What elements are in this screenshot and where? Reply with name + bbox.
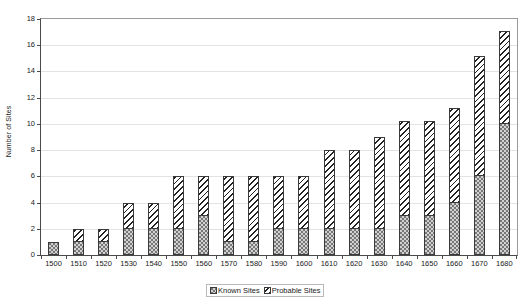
bar-stack[interactable] — [248, 176, 259, 255]
bar-slot[interactable] — [191, 19, 216, 255]
bar-stack[interactable] — [173, 176, 184, 255]
bar-segment-probable-sites[interactable] — [449, 108, 460, 202]
bar-segment-known-sites[interactable] — [123, 229, 134, 255]
bar-segment-known-sites[interactable] — [324, 229, 335, 255]
bar-stack[interactable] — [449, 108, 460, 255]
bar-segment-probable-sites[interactable] — [248, 176, 259, 242]
bar-segment-probable-sites[interactable] — [223, 176, 234, 242]
bar-segment-known-sites[interactable] — [399, 216, 410, 255]
legend-label: Probable Sites — [272, 286, 321, 295]
bar-slot[interactable] — [266, 19, 291, 255]
bar-slot[interactable] — [367, 19, 392, 255]
bar-segment-known-sites[interactable] — [374, 229, 385, 255]
x-axis-tick-label: 1630 — [367, 258, 392, 272]
bar-segment-probable-sites[interactable] — [123, 203, 134, 229]
bar-segment-probable-sites[interactable] — [173, 176, 184, 228]
bar-slot[interactable] — [91, 19, 116, 255]
bar-segment-probable-sites[interactable] — [298, 176, 309, 228]
bar-stack[interactable] — [474, 56, 485, 255]
chart-figure: Number of Sites 024681012141618 15001510… — [0, 0, 531, 302]
bar-segment-known-sites[interactable] — [223, 242, 234, 255]
x-axis-tick-label: 1650 — [417, 258, 442, 272]
bar-segment-known-sites[interactable] — [48, 242, 59, 255]
bar-stack[interactable] — [98, 229, 109, 255]
bar-slot[interactable] — [241, 19, 266, 255]
bar-slot[interactable] — [166, 19, 191, 255]
bar-segment-known-sites[interactable] — [273, 229, 284, 255]
x-axis-tick-label: 1590 — [266, 258, 291, 272]
bar-segment-known-sites[interactable] — [148, 229, 159, 255]
bar-segment-probable-sites[interactable] — [148, 203, 159, 229]
bar-segment-probable-sites[interactable] — [324, 150, 335, 229]
bar-stack[interactable] — [324, 150, 335, 255]
bar-slot[interactable] — [442, 19, 467, 255]
bar-segment-known-sites[interactable] — [499, 124, 510, 255]
x-axis-tick-label: 1510 — [66, 258, 91, 272]
y-axis-tick-label: 12 — [27, 94, 35, 102]
bar-segment-known-sites[interactable] — [298, 229, 309, 255]
bar-stack[interactable] — [374, 137, 385, 255]
x-axis-tick-label: 1540 — [141, 258, 166, 272]
x-axis-tick-label: 1580 — [241, 258, 266, 272]
bar-segment-known-sites[interactable] — [424, 216, 435, 255]
bar-segment-probable-sites[interactable] — [474, 56, 485, 177]
bar-slot[interactable] — [467, 19, 492, 255]
bar-segment-known-sites[interactable] — [198, 216, 209, 255]
bar-slot[interactable] — [116, 19, 141, 255]
legend-swatch-probable-icon — [264, 287, 271, 294]
bar-slot[interactable] — [291, 19, 316, 255]
bar-slot[interactable] — [417, 19, 442, 255]
bar-segment-probable-sites[interactable] — [424, 121, 435, 215]
x-axis-tick-label: 1640 — [392, 258, 417, 272]
bar-slot[interactable] — [141, 19, 166, 255]
bar-slot[interactable] — [317, 19, 342, 255]
chart-legend: Known SitesProbable Sites — [206, 284, 324, 297]
bar-stack[interactable] — [273, 176, 284, 255]
bar-segment-probable-sites[interactable] — [198, 176, 209, 215]
bar-stack[interactable] — [223, 176, 234, 255]
bar-segment-known-sites[interactable] — [98, 242, 109, 255]
x-axis-tick-label: 1680 — [492, 258, 517, 272]
bar-stack[interactable] — [298, 176, 309, 255]
bar-stack[interactable] — [424, 121, 435, 255]
bar-stack[interactable] — [73, 229, 84, 255]
y-axis-tick-label: 6 — [31, 172, 35, 180]
bar-segment-probable-sites[interactable] — [273, 176, 284, 228]
legend-swatch-known-icon — [210, 287, 217, 294]
bar-segment-known-sites[interactable] — [173, 229, 184, 255]
bar-stack[interactable] — [198, 176, 209, 255]
x-axis-tick-label: 1610 — [317, 258, 342, 272]
bar-segment-probable-sites[interactable] — [499, 31, 510, 124]
y-axis-tick-label: 16 — [27, 41, 35, 49]
bar-segment-probable-sites[interactable] — [73, 229, 84, 242]
bar-slot[interactable] — [492, 19, 517, 255]
bar-segment-known-sites[interactable] — [449, 203, 460, 255]
bar-slot[interactable] — [41, 19, 66, 255]
legend-item-known[interactable]: Known Sites — [210, 286, 260, 295]
x-axis-tick-label: 1670 — [467, 258, 492, 272]
bar-stack[interactable] — [399, 121, 410, 255]
bar-segment-probable-sites[interactable] — [399, 121, 410, 215]
bar-stack[interactable] — [349, 150, 360, 255]
x-axis-tick-label: 1570 — [216, 258, 241, 272]
bar-segment-known-sites[interactable] — [474, 176, 485, 255]
bar-segment-probable-sites[interactable] — [374, 137, 385, 229]
x-axis-tick-label: 1600 — [291, 258, 316, 272]
x-axis-tick-label: 1560 — [191, 258, 216, 272]
bar-segment-probable-sites[interactable] — [349, 150, 360, 229]
y-axis-tick-label: 4 — [31, 199, 35, 207]
bar-stack[interactable] — [148, 203, 159, 255]
legend-item-probable[interactable]: Probable Sites — [264, 286, 321, 295]
bar-slot[interactable] — [342, 19, 367, 255]
bar-stack[interactable] — [48, 242, 59, 255]
y-axis-tick-label: 0 — [31, 251, 35, 259]
bar-segment-known-sites[interactable] — [248, 242, 259, 255]
bar-slot[interactable] — [392, 19, 417, 255]
bar-segment-known-sites[interactable] — [349, 229, 360, 255]
bar-slot[interactable] — [216, 19, 241, 255]
bar-stack[interactable] — [499, 31, 510, 255]
bar-segment-known-sites[interactable] — [73, 242, 84, 255]
bar-stack[interactable] — [123, 203, 134, 255]
bar-slot[interactable] — [66, 19, 91, 255]
bar-segment-probable-sites[interactable] — [98, 229, 109, 242]
